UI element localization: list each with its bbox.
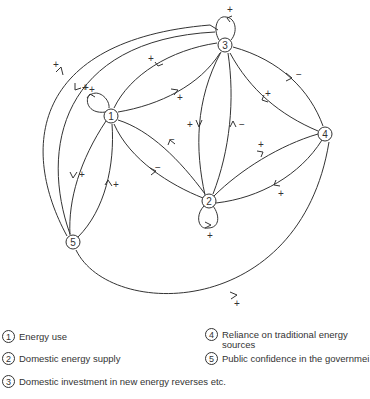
sign-3-4: − xyxy=(296,69,302,80)
sign-2-4: + xyxy=(258,139,264,150)
node-1: 1 xyxy=(104,109,118,123)
arrowhead xyxy=(75,83,81,90)
sign-5-4: + xyxy=(234,298,240,309)
legend-item-1: 1 Energy use xyxy=(2,332,67,343)
sign-3-2: + xyxy=(187,119,193,130)
edge-5-to-3 xyxy=(43,25,218,236)
sign-4-2: + xyxy=(278,188,284,199)
edge-1-to-5 xyxy=(70,121,106,235)
edge-2-to-4 xyxy=(214,134,318,196)
node-5: 5 xyxy=(66,235,80,249)
sign-5-1: + xyxy=(113,179,119,190)
svg-text:5: 5 xyxy=(70,237,76,248)
legend-item-2: 2 Domestic energy supply xyxy=(2,354,120,365)
edge-3-to-4 xyxy=(233,47,323,126)
legend-label: Public confidence in the governmei xyxy=(222,354,369,364)
legend-item-4: 4 Reliance on traditional energy sources xyxy=(205,330,348,350)
edge-2-to-3 xyxy=(213,53,231,194)
legend-label: Domestic investment in new energy revers… xyxy=(19,377,226,387)
svg-text:3: 3 xyxy=(222,40,228,51)
edge-3-to-3 xyxy=(216,17,235,40)
sign-1-1b: + xyxy=(89,84,95,95)
arrowhead xyxy=(286,73,292,81)
legend-number: 1 xyxy=(2,330,15,343)
legend-item-5: 5 Public confidence in the governmei xyxy=(205,354,369,365)
arrowhead xyxy=(196,120,202,127)
sign-2-1: − xyxy=(169,134,175,145)
sign-2-3: − xyxy=(239,119,245,130)
legend-label: Reliance on traditional energy sources xyxy=(222,330,348,350)
edge-2-to-2 xyxy=(199,206,218,228)
legend: 1 Energy use 2 Domestic energy supply 3 … xyxy=(0,318,370,399)
node-3: 3 xyxy=(218,38,232,52)
edge-3-to-2 xyxy=(199,52,221,195)
sign-2-2: + xyxy=(207,230,213,241)
sign-5-3: + xyxy=(53,59,59,70)
sign-3-3: + xyxy=(227,4,233,15)
legend-item-3: 3 Domestic investment in new energy reve… xyxy=(2,377,226,388)
arrowhead xyxy=(257,151,263,157)
arrowhead xyxy=(230,121,236,127)
edge-5-to-4 xyxy=(76,142,329,294)
legend-number: 4 xyxy=(205,328,218,341)
node-4: 4 xyxy=(318,127,332,141)
causal-loop-diagram: + + + + + + − − + − + + − + + + + xyxy=(0,0,370,315)
legend-label: Energy use xyxy=(19,332,67,342)
edge-4-to-2 xyxy=(216,140,322,203)
sign-1-5: + xyxy=(79,169,85,180)
arrowhead xyxy=(205,222,211,228)
legend-label: Domestic energy supply xyxy=(19,354,120,364)
edge-1-to-3 xyxy=(118,53,220,112)
node-2: 2 xyxy=(202,194,216,208)
edge-2-to-1 xyxy=(118,120,205,194)
legend-number: 2 xyxy=(2,352,15,365)
sign-1-3: + xyxy=(177,92,183,103)
edge-1-to-1 xyxy=(87,93,109,112)
legend-label-line2: sources xyxy=(222,339,255,350)
svg-text:1: 1 xyxy=(108,111,114,122)
svg-text:2: 2 xyxy=(206,196,212,207)
sign-1-2: − xyxy=(155,162,161,173)
sign-4-3: + xyxy=(265,88,271,99)
legend-number: 5 xyxy=(205,352,218,365)
sign-3-1: + xyxy=(148,53,154,64)
legend-number: 3 xyxy=(2,375,15,388)
svg-text:4: 4 xyxy=(322,129,328,140)
edge-3-to-5 xyxy=(58,32,215,234)
arrowhead xyxy=(70,172,77,178)
